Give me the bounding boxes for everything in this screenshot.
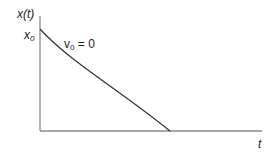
graph-canvas [0,0,278,155]
initial-position-label: x0 [24,29,34,43]
initial-velocity-annotation: v0 = 0 [64,38,95,52]
velocity-rest: = 0 [74,37,94,51]
position-curve [40,29,170,131]
x-axis-label: t [258,138,261,150]
y-axis-label: x(t) [17,8,34,20]
initial-position-sub: 0 [30,34,34,43]
